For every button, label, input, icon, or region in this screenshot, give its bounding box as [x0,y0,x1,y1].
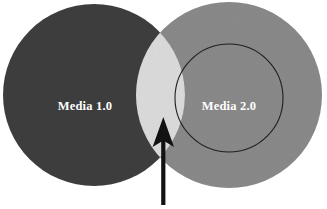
set-label-media-1: Media 1.0 [58,99,113,113]
venn-diagram-canvas: Media 1.0 Media 2.0 [0,0,327,209]
set-label-media-2: Media 2.0 [202,99,257,113]
venn-diagram: Media 1.0 Media 2.0 [0,0,327,209]
arrow-shaft [161,140,165,205]
